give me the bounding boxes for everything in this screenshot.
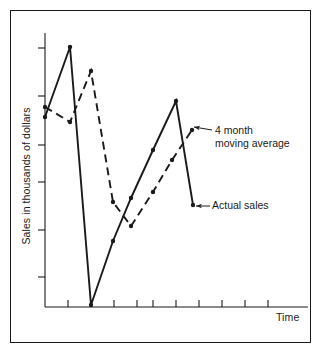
data-point-1-7 — [190, 128, 194, 132]
chart-plot-area — [0, 0, 323, 356]
data-point-1-6 — [170, 158, 174, 162]
annotation-leaders — [194, 127, 212, 206]
data-point-1-4 — [129, 224, 133, 228]
series-line-0 — [45, 47, 193, 305]
data-point-1-2 — [89, 69, 93, 73]
annotation-moving-average: 4 month moving average — [215, 124, 290, 149]
series-4-month-moving-average — [43, 69, 194, 228]
series-actual-sales — [43, 45, 195, 307]
data-point-1-1 — [68, 120, 72, 124]
data-point-0-1 — [68, 45, 72, 49]
x-axis-label: Time — [276, 311, 299, 323]
figure-container: Sales in thousands of dollars Time 4 mon… — [0, 0, 323, 356]
data-point-0-3 — [111, 239, 115, 243]
x-axis-ticks — [68, 300, 268, 307]
data-point-0-2 — [89, 303, 93, 307]
data-point-1-0 — [43, 105, 47, 109]
leader-line-moving-average — [194, 127, 212, 130]
annotation-actual-sales: Actual sales — [212, 199, 269, 212]
data-point-1-5 — [151, 190, 155, 194]
data-point-0-4 — [129, 196, 133, 200]
data-point-0-7 — [191, 203, 195, 207]
y-axis-ticks — [38, 48, 45, 277]
series-line-1 — [45, 71, 192, 226]
y-axis-label: Sales in thousands of dollars — [20, 91, 32, 261]
data-point-1-3 — [111, 200, 115, 204]
data-point-0-5 — [151, 148, 155, 152]
data-series-layer — [43, 45, 195, 307]
axis-lines — [45, 33, 308, 307]
data-point-0-6 — [174, 99, 178, 103]
data-point-0-0 — [43, 115, 47, 119]
